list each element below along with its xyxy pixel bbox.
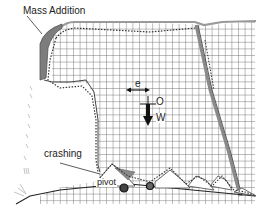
- mass-addition-leader: [27, 16, 42, 34]
- crashing-label: crashing: [44, 149, 82, 159]
- origin-label: O: [156, 97, 164, 107]
- eccentricity-label: e: [135, 79, 141, 89]
- diagram-canvas: [0, 0, 270, 216]
- crashing-leader: [60, 163, 100, 174]
- pivot-circle-1: [120, 184, 128, 192]
- weight-label: W: [156, 113, 165, 123]
- debris-marks: [14, 86, 32, 196]
- mesh-diagram: Mass Addition e O W crashing pivot: [0, 0, 270, 216]
- pivot-label: pivot: [96, 178, 117, 187]
- mass-addition-label: Mass Addition: [23, 6, 85, 16]
- pivot-circle-2: [147, 183, 154, 190]
